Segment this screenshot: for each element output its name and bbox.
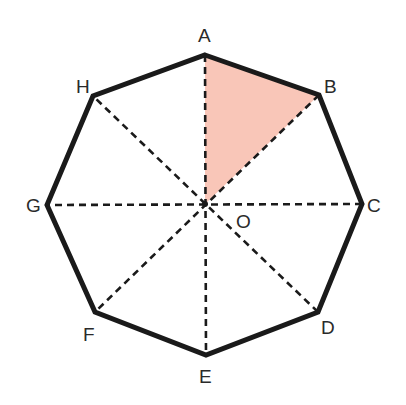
label-C: C	[367, 195, 381, 216]
label-G: G	[26, 195, 41, 216]
label-E: E	[199, 366, 212, 387]
label-F: F	[83, 324, 95, 345]
label-A: A	[198, 25, 211, 46]
label-O: O	[236, 211, 251, 232]
label-D: D	[321, 317, 335, 338]
label-H: H	[76, 76, 90, 97]
label-B: B	[324, 76, 337, 97]
center-point-O	[202, 201, 208, 207]
octagon-diagram: A B C D E F G H O	[0, 0, 406, 405]
